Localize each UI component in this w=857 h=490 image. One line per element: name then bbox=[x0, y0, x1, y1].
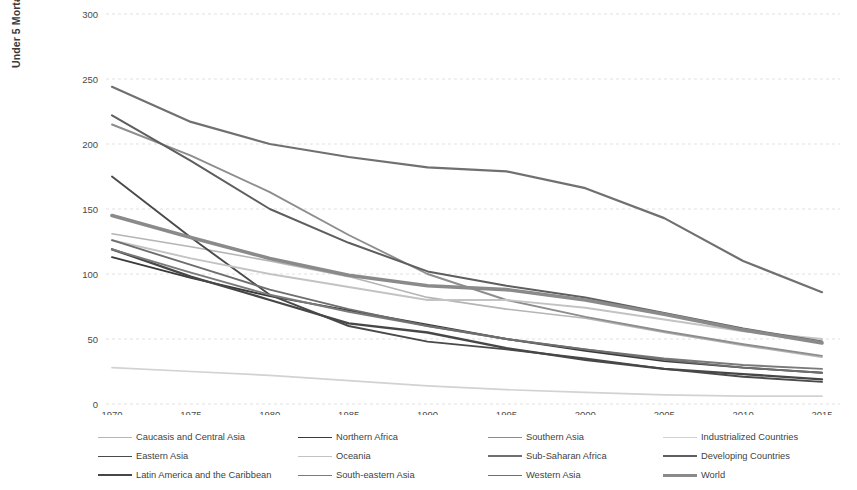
series-line-western-asia bbox=[112, 240, 822, 373]
legend-item-label: Sub-Saharan Africa bbox=[526, 452, 607, 461]
legend-item-label: Eastern Asia bbox=[136, 452, 188, 461]
chart-legend: Caucasis and Central AsiaEastern AsiaLat… bbox=[98, 428, 850, 486]
legend-item[interactable]: Developing Countries bbox=[663, 452, 848, 461]
y-axis-tick-label: 100 bbox=[82, 269, 98, 280]
legend-line-swatch bbox=[663, 437, 697, 438]
legend-item-label: Latin America and the Caribbean bbox=[136, 471, 271, 480]
series-line-latin-america-and-the-caribbean bbox=[112, 249, 822, 379]
legend-item-label: South-eastern Asia bbox=[336, 471, 415, 480]
legend-item[interactable]: Oceania bbox=[298, 452, 488, 461]
legend-line-swatch bbox=[488, 475, 522, 476]
legend-item[interactable]: Industrialized Countries bbox=[663, 433, 848, 442]
x-axis-tick-label: 2005 bbox=[654, 409, 675, 415]
x-axis-tick-label: 1980 bbox=[259, 409, 280, 415]
x-axis-tick-label: 2015 bbox=[811, 409, 832, 415]
plot-area: 0501001502002503001970197519801985199019… bbox=[0, 0, 857, 415]
legend-item[interactable]: Caucasis and Central Asia bbox=[98, 433, 298, 442]
x-axis-tick-label: 2010 bbox=[733, 409, 754, 415]
legend-item[interactable]: Latin America and the Caribbean bbox=[98, 471, 298, 480]
y-axis-tick-label: 250 bbox=[82, 74, 98, 85]
x-axis-tick-label: 1995 bbox=[496, 409, 517, 415]
legend-line-swatch bbox=[663, 455, 697, 457]
legend-line-swatch bbox=[98, 474, 132, 476]
legend-item-label: Northern Africa bbox=[336, 433, 398, 442]
y-axis-tick-label: 200 bbox=[82, 139, 98, 150]
legend-line-swatch bbox=[663, 474, 697, 477]
legend-line-swatch bbox=[488, 455, 522, 457]
line-chart-svg: 0501001502002503001970197519801985199019… bbox=[0, 0, 857, 415]
x-axis-tick-label: 1990 bbox=[417, 409, 438, 415]
y-axis-tick-label: 0 bbox=[93, 399, 98, 410]
x-axis-tick-label: 1985 bbox=[338, 409, 359, 415]
legend-item-label: World bbox=[701, 471, 725, 480]
legend-item[interactable]: South-eastern Asia bbox=[298, 471, 488, 480]
legend-item-label: Western Asia bbox=[526, 471, 581, 480]
legend-item-label: Oceania bbox=[336, 452, 371, 461]
x-axis-tick-label: 1975 bbox=[180, 409, 201, 415]
legend-item[interactable]: Northern Africa bbox=[298, 433, 488, 442]
legend-item-label: Caucasis and Central Asia bbox=[136, 433, 245, 442]
y-axis-tick-label: 150 bbox=[82, 204, 98, 215]
series-line-southern-asia bbox=[112, 125, 822, 356]
legend-line-swatch bbox=[98, 456, 132, 457]
y-axis-tick-label: 50 bbox=[87, 334, 98, 345]
legend-item[interactable]: Eastern Asia bbox=[98, 452, 298, 461]
legend-item[interactable]: Sub-Saharan Africa bbox=[488, 452, 663, 461]
legend-item[interactable]: World bbox=[663, 471, 848, 480]
legend-line-swatch bbox=[488, 437, 522, 438]
legend-item-label: Developing Countries bbox=[701, 452, 790, 461]
y-axis-tick-label: 300 bbox=[82, 9, 98, 20]
series-line-south-eastern-asia bbox=[112, 249, 822, 369]
legend-item[interactable]: Western Asia bbox=[488, 471, 663, 480]
legend-item-label: Industrialized Countries bbox=[701, 433, 798, 442]
legend-line-swatch bbox=[298, 456, 332, 457]
x-axis-tick-label: 1970 bbox=[101, 409, 122, 415]
legend-item-label: Southern Asia bbox=[526, 433, 584, 442]
legend-line-swatch bbox=[298, 475, 332, 476]
series-line-developing-countries bbox=[112, 115, 822, 341]
legend-item[interactable]: Southern Asia bbox=[488, 433, 663, 442]
series-line-sub-saharan-africa bbox=[112, 87, 822, 292]
legend-line-swatch bbox=[298, 437, 332, 438]
x-axis-tick-label: 2000 bbox=[575, 409, 596, 415]
chart-container: Under 5 Mortality Rates per 1,000 Live B… bbox=[0, 0, 857, 490]
legend-line-swatch bbox=[98, 437, 132, 438]
